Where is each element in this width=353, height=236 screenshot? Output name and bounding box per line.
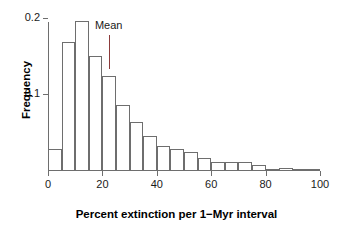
x-axis-label: Percent extinction per 1−Myr interval: [0, 208, 353, 220]
mean-marker-line: [109, 35, 111, 69]
x-axis-tick-label: 20: [82, 178, 122, 190]
y-axis-tick: [43, 18, 48, 19]
plot-area: [48, 14, 320, 170]
x-axis-tick: [320, 171, 321, 176]
x-axis-tick: [102, 171, 103, 176]
histogram-bar: [225, 162, 239, 170]
y-axis-tick-label: 0.2: [6, 11, 40, 23]
histogram-bar: [102, 76, 116, 170]
y-axis-line: [48, 22, 49, 170]
histogram-bar: [75, 21, 89, 170]
x-axis-tick-label: 60: [191, 178, 231, 190]
histogram-bar: [62, 42, 76, 170]
histogram-bar: [238, 162, 252, 170]
histogram-bar: [143, 136, 157, 170]
x-axis-tick-label: 0: [28, 178, 68, 190]
x-axis-tick: [157, 171, 158, 176]
histogram-bar: [184, 152, 198, 170]
x-axis-tick-label: 40: [137, 178, 177, 190]
y-axis-label: Frequency: [20, 25, 32, 155]
histogram-bar: [130, 122, 144, 170]
histogram-bar: [89, 56, 103, 170]
x-axis-tick: [211, 171, 212, 176]
histogram-bar: [157, 146, 171, 170]
histogram-bar: [170, 149, 184, 170]
histogram-figure: 0204060801000.10.2 Mean Percent extincti…: [0, 0, 353, 236]
histogram-bar: [48, 149, 62, 170]
histogram-bar: [198, 158, 212, 170]
histogram-bar: [116, 105, 130, 170]
histogram-bar: [211, 162, 225, 170]
x-axis-tick: [48, 171, 49, 176]
mean-label: Mean: [95, 19, 123, 31]
y-axis-tick: [43, 94, 48, 95]
x-axis-tick-label: 80: [246, 178, 286, 190]
x-axis-line: [48, 170, 320, 171]
x-axis-tick: [266, 171, 267, 176]
x-axis-tick-label: 100: [300, 178, 340, 190]
